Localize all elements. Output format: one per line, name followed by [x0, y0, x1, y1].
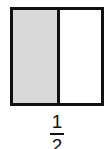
fraction-label: 1 2 [42, 112, 72, 149]
fraction-denominator: 2 [42, 136, 72, 149]
shaded-part [13, 10, 60, 103]
fraction-rectangle [10, 7, 104, 106]
fraction-numerator: 1 [42, 112, 72, 131]
unshaded-part [60, 10, 101, 103]
